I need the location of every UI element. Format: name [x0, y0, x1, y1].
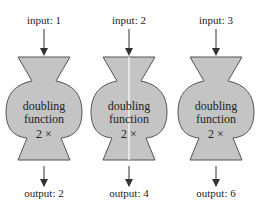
machine-name-line1: doubling	[0, 100, 89, 112]
machine-3: input: 3 doubling function 2 × output: 6	[171, 0, 260, 205]
machine-name-line2: function	[171, 113, 260, 125]
machine-2: input: 2 doubling function 2 × output: 4	[84, 0, 174, 205]
machine-name-line1: doubling	[84, 100, 174, 112]
output-label: output: 4	[84, 187, 174, 199]
output-label: output: 2	[0, 187, 89, 199]
machine-rule: 2 ×	[84, 128, 174, 140]
machine-rule: 2 ×	[0, 128, 89, 140]
machine-rule: 2 ×	[171, 128, 260, 140]
machine-name-line2: function	[84, 113, 174, 125]
machine-name-line2: function	[0, 113, 89, 125]
machine-1: input: 1 doubling function 2 × output: 2	[0, 0, 89, 205]
output-label: output: 6	[171, 187, 260, 199]
diagram: input: 1 doubling function 2 × output: 2…	[0, 0, 260, 205]
machine-name-line1: doubling	[171, 100, 260, 112]
